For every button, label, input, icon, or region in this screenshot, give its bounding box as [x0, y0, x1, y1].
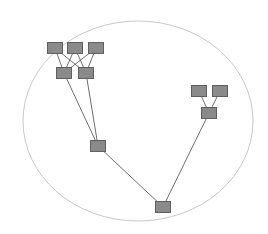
nodes-group	[48, 43, 228, 213]
node-box[interactable]	[202, 108, 217, 119]
edge-c1-root	[98, 146, 163, 207]
tree-diagram	[0, 0, 268, 234]
node-box[interactable]	[68, 43, 83, 54]
node-box[interactable]	[89, 43, 104, 54]
edge-m1-c1	[64, 73, 98, 146]
node-r2[interactable]	[213, 86, 228, 97]
node-r3[interactable]	[202, 108, 217, 119]
node-box[interactable]	[91, 141, 106, 152]
node-t1[interactable]	[48, 43, 63, 54]
node-m1[interactable]	[57, 68, 72, 79]
edge-r3-root	[163, 113, 209, 207]
node-c1[interactable]	[91, 141, 106, 152]
node-box[interactable]	[79, 68, 94, 79]
node-box[interactable]	[48, 43, 63, 54]
node-r1[interactable]	[192, 86, 207, 97]
node-box[interactable]	[192, 86, 207, 97]
node-m2[interactable]	[79, 68, 94, 79]
edge-m2-c1	[86, 73, 98, 146]
node-root[interactable]	[156, 202, 171, 213]
node-t3[interactable]	[89, 43, 104, 54]
node-box[interactable]	[156, 202, 171, 213]
node-t2[interactable]	[68, 43, 83, 54]
node-box[interactable]	[57, 68, 72, 79]
node-box[interactable]	[213, 86, 228, 97]
